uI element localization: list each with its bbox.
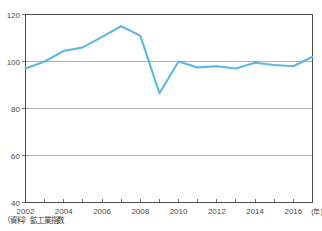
ytick-label-60: 60 bbox=[11, 152, 20, 161]
ytick-label-120: 120 bbox=[7, 11, 21, 20]
series-line-0 bbox=[26, 26, 313, 93]
line-chart: 4060801001202002200420062008201020122014… bbox=[0, 0, 322, 231]
xtick-label-2006: 2006 bbox=[93, 207, 111, 216]
xtick-label-2014: 2014 bbox=[246, 207, 264, 216]
ytick-label-80: 80 bbox=[11, 105, 20, 114]
xtick-label-2010: 2010 bbox=[170, 207, 188, 216]
chart-container: 4060801001202002200420062008201020122014… bbox=[0, 0, 322, 231]
ytick-label-100: 100 bbox=[7, 58, 21, 67]
xtick-label-2012: 2012 bbox=[208, 207, 226, 216]
xtick-label-2016: 2016 bbox=[284, 207, 302, 216]
xtick-label-2008: 2008 bbox=[131, 207, 149, 216]
x-axis-unit-label: (年) bbox=[311, 207, 322, 216]
source-note: （資料）鉱工業指数 bbox=[3, 214, 64, 225]
